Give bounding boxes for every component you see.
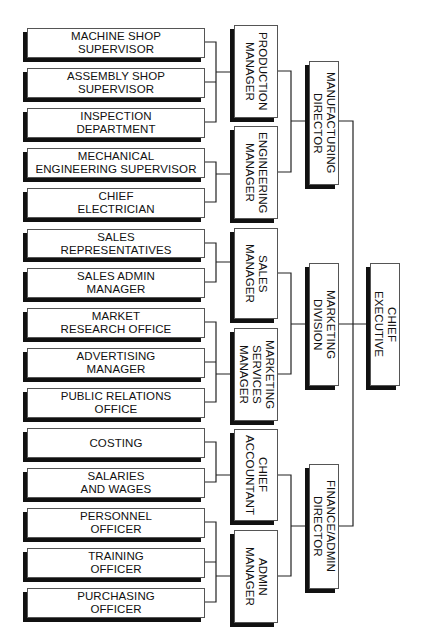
box-public-relations-office: PUBLIC RELATIONS OFFICE	[27, 388, 205, 418]
box-label: MARKET RESEARCH OFFICE	[61, 310, 172, 336]
box-personnel-officer: PERSONNEL OFFICER	[27, 508, 205, 538]
box-label: INSPECTION DEPARTMENT	[76, 110, 155, 136]
box-training-officer: TRAINING OFFICER	[27, 548, 205, 578]
box-engineering-manager: ENGINEERING MANAGER	[234, 126, 278, 219]
box-label: PRODUCTION MANAGER	[243, 32, 269, 110]
box-admin-manager: ADMIN MANAGER	[234, 530, 278, 623]
box-label: MARKETING SERVICES MANAGER	[237, 340, 276, 409]
box-marketing-services-manager: MARKETING SERVICES MANAGER	[234, 328, 278, 421]
box-label: FINANCE/ADMIN DIRECTOR	[311, 480, 337, 572]
box-chief-accountant: CHIEF ACCOUNTANT	[234, 429, 278, 521]
box-costing: COSTING	[27, 428, 205, 458]
box-label: ENGINEERING MANAGER	[243, 132, 269, 214]
box-label: SALARIES AND WAGES	[81, 470, 152, 496]
box-label: MACHINE SHOP SUPERVISOR	[71, 30, 161, 56]
box-label: SALES ADMIN MANAGER	[77, 270, 155, 296]
box-sales-manager: SALES MANAGER	[234, 228, 278, 319]
box-label: PURCHASING OFFICER	[77, 590, 155, 616]
box-market-research-office: MARKET RESEARCH OFFICE	[27, 308, 205, 338]
box-production-manager: PRODUCTION MANAGER	[234, 25, 278, 118]
box-label: COSTING	[89, 437, 142, 450]
box-label: SALES REPRESENTATIVES	[61, 231, 172, 257]
box-assembly-shop-supervisor: ASSEMBLY SHOP SUPERVISOR	[27, 68, 205, 98]
box-label: SALES MANAGER	[243, 244, 269, 303]
box-label: ADMIN MANAGER	[243, 547, 269, 606]
box-label: CHIEF ACCOUNTANT	[243, 435, 269, 515]
box-label: PUBLIC RELATIONS OFFICE	[61, 390, 172, 416]
box-salaries-and-wages: SALARIES AND WAGES	[27, 468, 205, 498]
box-sales-admin-manager: SALES ADMIN MANAGER	[27, 268, 205, 298]
box-label: CHIEF EXECUTIVE	[372, 291, 398, 357]
box-label: PERSONNEL OFFICER	[80, 510, 152, 536]
box-chief-electrician: CHIEF ELECTRICIAN	[27, 188, 205, 218]
box-inspection-department: INSPECTION DEPARTMENT	[27, 108, 205, 138]
box-sales-representatives: SALES REPRESENTATIVES	[27, 229, 205, 258]
box-mechanical-engineering-supervisor: MECHANICAL ENGINEERING SUPERVISOR	[27, 148, 205, 178]
box-label: MARKETING DIVISION	[311, 290, 337, 359]
box-label: ASSEMBLY SHOP SUPERVISOR	[67, 70, 165, 96]
box-label: MECHANICAL ENGINEERING SUPERVISOR	[35, 150, 196, 176]
box-marketing-division: MARKETING DIVISION	[309, 263, 339, 386]
box-machine-shop-supervisor: MACHINE SHOP SUPERVISOR	[27, 28, 205, 58]
box-finance-admin-director: FINANCE/ADMIN DIRECTOR	[309, 464, 339, 589]
box-purchasing-officer: PURCHASING OFFICER	[27, 588, 205, 618]
box-manufacturing-director: MANUFACTURING DIRECTOR	[309, 61, 339, 185]
box-chief-executive: CHIEF EXECUTIVE	[370, 263, 400, 386]
box-label: MANUFACTURING DIRECTOR	[311, 72, 337, 174]
box-advertising-manager: ADVERTISING MANAGER	[27, 348, 205, 378]
box-label: ADVERTISING MANAGER	[77, 350, 156, 376]
box-label: TRAINING OFFICER	[88, 550, 144, 576]
box-label: CHIEF ELECTRICIAN	[77, 190, 154, 216]
